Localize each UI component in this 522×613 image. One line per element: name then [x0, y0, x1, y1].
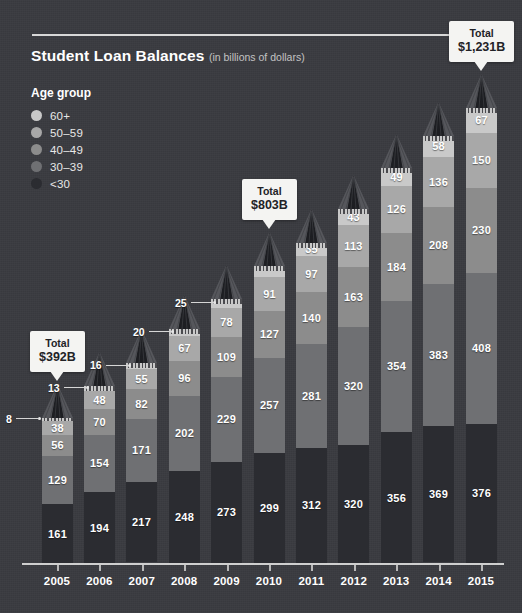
segment-value-label: 369	[429, 489, 448, 500]
segment-value-label: 161	[48, 529, 67, 540]
bar-segment-2010-50-59[interactable]: 91	[254, 277, 285, 311]
bar-segment-2014-60-[interactable]: 58	[423, 136, 454, 157]
bar-segment-2006-30-39[interactable]: 154	[84, 435, 115, 492]
bar-2007[interactable]: 5582171217	[126, 363, 157, 563]
bar-segment-2010-60-[interactable]	[254, 266, 285, 277]
bar-segment-2009-40-49[interactable]: 109	[211, 337, 242, 377]
bar-segment-2005-40-49[interactable]: 56	[42, 435, 73, 456]
bar-segment-2015-60-[interactable]: 67	[466, 108, 497, 133]
bar-segment-2005--30[interactable]: 161	[42, 504, 73, 564]
bar-2009[interactable]: 78109229273	[211, 299, 242, 563]
pencil-tip-2010	[254, 232, 285, 266]
segment-value-label: 91	[263, 289, 276, 300]
segment-value-label: 273	[217, 507, 236, 518]
segment-value-label: 320	[344, 499, 363, 510]
bar-segment-2014-30-39[interactable]: 383	[423, 284, 454, 426]
legend-item-50-59[interactable]: 50–59	[31, 124, 91, 141]
bar-segment-2010--30[interactable]: 299	[254, 453, 285, 564]
bar-segment-2012--30[interactable]: 320	[338, 445, 369, 563]
bar-segment-2007--30[interactable]: 217	[126, 482, 157, 562]
callout-label: Total	[458, 27, 505, 40]
bar-segment-2012-40-49[interactable]: 163	[338, 267, 369, 327]
bar-segment-2012-30-39[interactable]: 320	[338, 327, 369, 445]
legend-items: 60+50–5940–4930–39<30	[31, 107, 91, 192]
bar-segment-2014-40-49[interactable]: 208	[423, 207, 454, 284]
segment-value-label: 113	[344, 241, 362, 252]
bar-2005[interactable]: 3856129161	[42, 418, 73, 563]
bar-segment-2012-50-59[interactable]: 113	[338, 225, 369, 267]
segment-value-label: 257	[260, 400, 279, 411]
bar-segment-2015-40-49[interactable]: 230	[466, 188, 497, 273]
bar-segment-2005-50-59[interactable]: 38	[42, 421, 73, 435]
bar-segment-2010-30-39[interactable]: 257	[254, 358, 285, 453]
bar-segment-2011-60-[interactable]: 35	[296, 243, 327, 256]
bar-2013[interactable]: 49126184354356	[381, 168, 412, 563]
bar-segment-2009-30-39[interactable]: 229	[211, 377, 242, 462]
bar-segment-2007-50-59[interactable]: 55	[126, 369, 157, 389]
bar-2012[interactable]: 43113163320320	[338, 209, 369, 563]
bar-segment-2013-40-49[interactable]: 184	[381, 233, 412, 301]
bar-segment-2011--30[interactable]: 312	[296, 448, 327, 563]
x-tick-2012	[354, 565, 356, 571]
segment-value-label: 67	[475, 115, 488, 126]
legend-item-60-[interactable]: 60+	[31, 107, 91, 124]
bar-segment-2006-40-49[interactable]: 70	[84, 409, 115, 435]
bar-segment-2013--30[interactable]: 356	[381, 432, 412, 564]
header-rule	[32, 34, 452, 36]
x-tick-2005	[57, 565, 59, 571]
leader-dot	[86, 386, 89, 389]
bar-segment-2012-60-[interactable]: 43	[338, 209, 369, 225]
bar-2006[interactable]: 4870154194	[84, 386, 115, 563]
bar-segment-2008-40-49[interactable]: 96	[169, 361, 200, 396]
pencil-tip-2009	[211, 265, 242, 299]
bar-segment-2011-50-59[interactable]: 97	[296, 256, 327, 292]
bar-segment-2007-40-49[interactable]: 82	[126, 389, 157, 419]
bar-2015[interactable]: 67150230408376	[466, 108, 497, 563]
bar-segment-2008--30[interactable]: 248	[169, 471, 200, 563]
legend-item-40-49[interactable]: 40–49	[31, 141, 91, 158]
bar-segment-2006--30[interactable]: 194	[84, 492, 115, 564]
x-tick-2006	[99, 565, 101, 571]
leader-dot	[38, 417, 41, 420]
bar-segment-2014--30[interactable]: 369	[423, 426, 454, 562]
bar-segment-2006-50-59[interactable]: 48	[84, 391, 115, 409]
bar-2010[interactable]: 91127257299	[254, 266, 285, 563]
segment-value-label: 35	[305, 244, 318, 255]
segment-value-label: 202	[175, 428, 194, 439]
segment-value-label: 109	[217, 352, 236, 363]
legend-item-30-39[interactable]: 30–39	[31, 158, 91, 175]
leader-line	[64, 387, 86, 388]
total-2015-callout[interactable]: Total$1,231B	[449, 21, 514, 62]
total-2005-callout[interactable]: Total$392B	[30, 331, 85, 372]
bar-segment-2015--30[interactable]: 376	[466, 424, 497, 563]
segment-value-label: 312	[302, 500, 321, 511]
bar-segment-2013-60-[interactable]: 49	[381, 168, 412, 186]
bar-segment-2009--30[interactable]: 273	[211, 462, 242, 563]
leader-line	[16, 418, 38, 419]
bar-segment-2008-30-39[interactable]: 202	[169, 396, 200, 471]
bar-segment-2015-30-39[interactable]: 408	[466, 273, 497, 424]
bar-2014[interactable]: 58136208383369	[423, 136, 454, 563]
bar-2008[interactable]: 6796202248	[169, 329, 200, 563]
bar-segment-2014-50-59[interactable]: 136	[423, 157, 454, 207]
bar-segment-2009-50-59[interactable]: 78	[211, 308, 242, 337]
bar-segment-2010-40-49[interactable]: 127	[254, 311, 285, 358]
leader-line	[149, 331, 171, 332]
segment-value-label: 229	[217, 414, 236, 425]
callout-value: $1,231B	[458, 40, 505, 55]
pencil-ferrule	[254, 266, 285, 271]
bar-segment-2013-50-59[interactable]: 126	[381, 186, 412, 233]
legend-item--30[interactable]: <30	[31, 175, 91, 192]
bar-segment-2008-50-59[interactable]: 67	[169, 336, 200, 361]
segment-value-label: 383	[429, 350, 448, 361]
bar-segment-2011-30-39[interactable]: 281	[296, 344, 327, 448]
total-2010-callout[interactable]: Total$803B	[242, 179, 297, 220]
bar-segment-2015-50-59[interactable]: 150	[466, 133, 497, 188]
bar-2011[interactable]: 3597140281312	[296, 243, 327, 563]
bar-segment-2005-30-39[interactable]: 129	[42, 456, 73, 504]
bar-segment-2007-30-39[interactable]: 171	[126, 419, 157, 482]
bar-segment-2013-30-39[interactable]: 354	[381, 301, 412, 432]
segment-value-label: 126	[387, 204, 406, 215]
x-tick-2013	[396, 565, 398, 571]
bar-segment-2011-40-49[interactable]: 140	[296, 292, 327, 344]
